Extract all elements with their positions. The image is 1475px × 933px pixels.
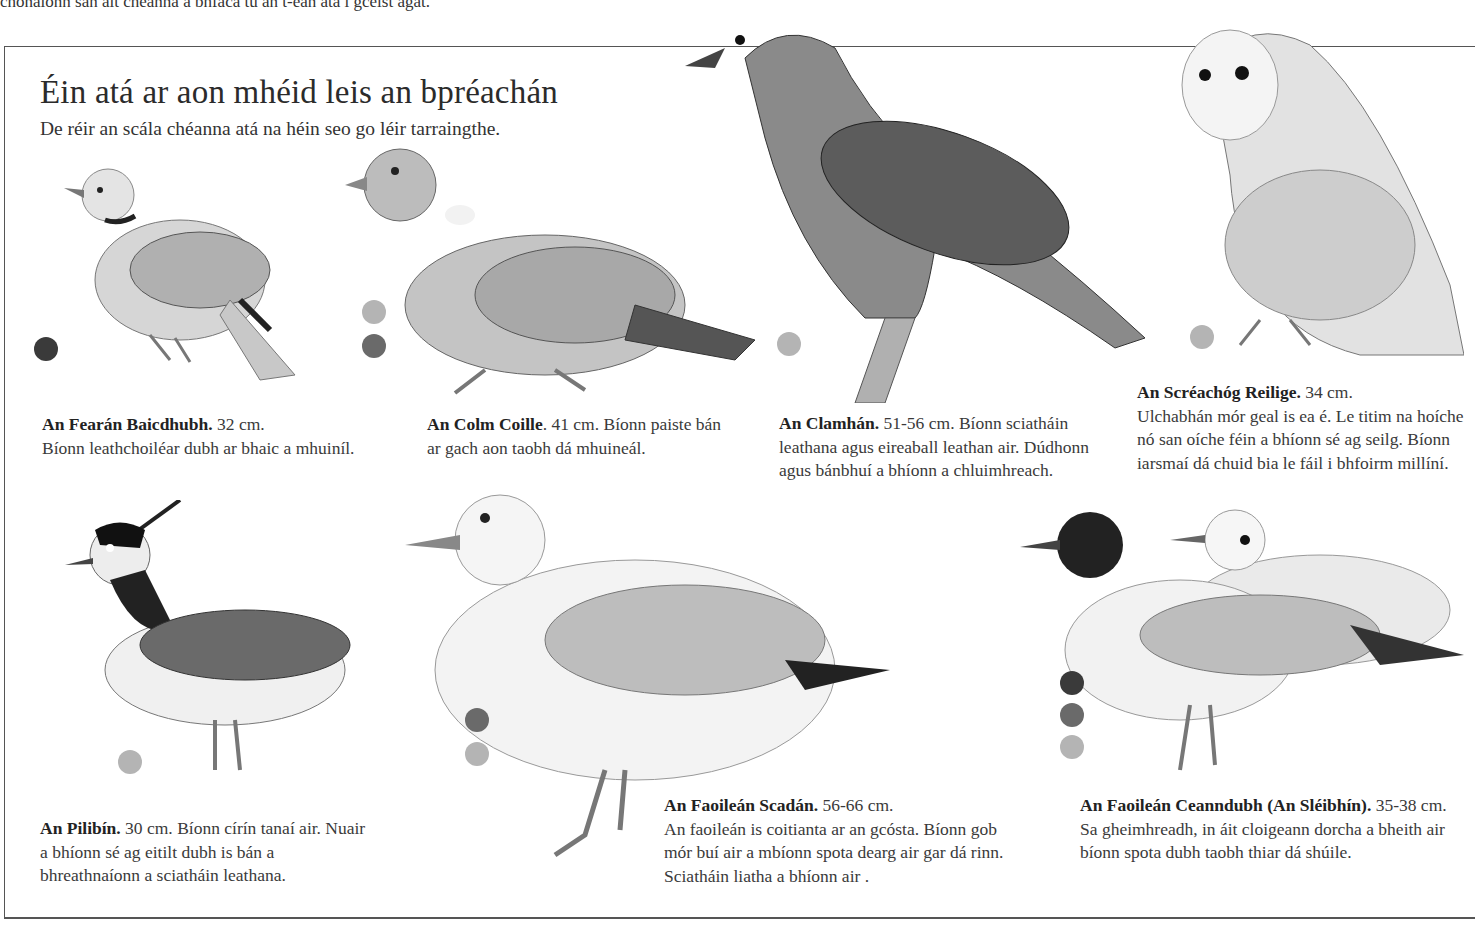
page-subtitle: De réir an scála chéanna atá na héin seo…	[40, 118, 500, 140]
distribution-dot-light	[118, 750, 142, 774]
bird-name: An Fearán Baicdhubh.	[42, 414, 213, 434]
caption-wood-pigeon: An Colm Coille. 41 cm. Bíonn paiste bán …	[427, 413, 737, 460]
bird-size: 56-66 cm.	[823, 795, 894, 815]
previous-page-text-fragment: chonaíonn san áit chéanna a bhfaca tú an…	[0, 0, 430, 12]
bird-size: 30 cm.	[125, 818, 173, 838]
caption-herring-gull: An Faoileán Scadán. 56-66 cm. An faoileá…	[664, 794, 1009, 888]
distribution-dot-light	[362, 300, 386, 324]
bird-name: An Faoileán Ceanndubh (An Sléibhín).	[1080, 795, 1371, 815]
buzzard-illustration	[685, 18, 1155, 403]
collared-dove-illustration	[60, 150, 310, 385]
page-title: Éin atá ar aon mhéid leis an bpréachán	[40, 74, 558, 111]
bird-size: 32 cm.	[217, 414, 265, 434]
barn-owl-illustration	[1180, 25, 1464, 360]
bird-name: An Clamhán.	[779, 413, 879, 433]
bird-size: 51-56 cm.	[884, 413, 955, 433]
caption-black-headed-gull: An Faoileán Ceanndubh (An Sléibhín). 35-…	[1080, 794, 1450, 865]
bird-description: An faoileán is coitianta ar an gcósta. B…	[664, 819, 1003, 886]
bird-name: An Pilibín.	[40, 818, 121, 838]
bird-name: An Colm Coille	[427, 414, 543, 434]
bird-description: Sa gheimhreadh, in áit cloigeann dorcha …	[1080, 819, 1445, 863]
distribution-dot-light	[1190, 325, 1214, 349]
bird-name: An Scréachóg Reilige.	[1137, 382, 1301, 402]
distribution-dot-dark	[34, 337, 58, 361]
caption-lapwing: An Pilibín. 30 cm. Bíonn círín tanaí air…	[40, 817, 370, 888]
distribution-dot-light	[465, 742, 489, 766]
bird-name: An Faoileán Scadán.	[664, 795, 818, 815]
bird-description: Bíonn leathchoiléar dubh ar bhaic a mhui…	[42, 438, 354, 458]
distribution-dot-light	[1060, 735, 1084, 759]
distribution-dot-dark	[1060, 671, 1084, 695]
caption-buzzard: An Clamhán. 51-56 cm. Bíonn sciatháin le…	[779, 412, 1109, 483]
distribution-dot-light	[777, 332, 801, 356]
bird-size: 34 cm.	[1305, 382, 1353, 402]
distribution-dot-mid	[1060, 703, 1084, 727]
black-headed-gull-illustration	[1020, 505, 1464, 780]
caption-collared-dove: An Fearán Baicdhubh. 32 cm. Bíonn leathc…	[42, 413, 372, 460]
caption-barn-owl: An Scréachóg Reilige. 34 cm. Ulchabhán m…	[1137, 381, 1467, 475]
distribution-dot-mid	[362, 334, 386, 358]
lapwing-illustration	[65, 500, 385, 800]
bird-size: . 41 cm.	[543, 414, 599, 434]
distribution-dot-mid	[465, 708, 489, 732]
bird-size: 35-38 cm.	[1376, 795, 1447, 815]
bird-description: Ulchabhán mór geal is ea é. Le titim na …	[1137, 406, 1464, 473]
